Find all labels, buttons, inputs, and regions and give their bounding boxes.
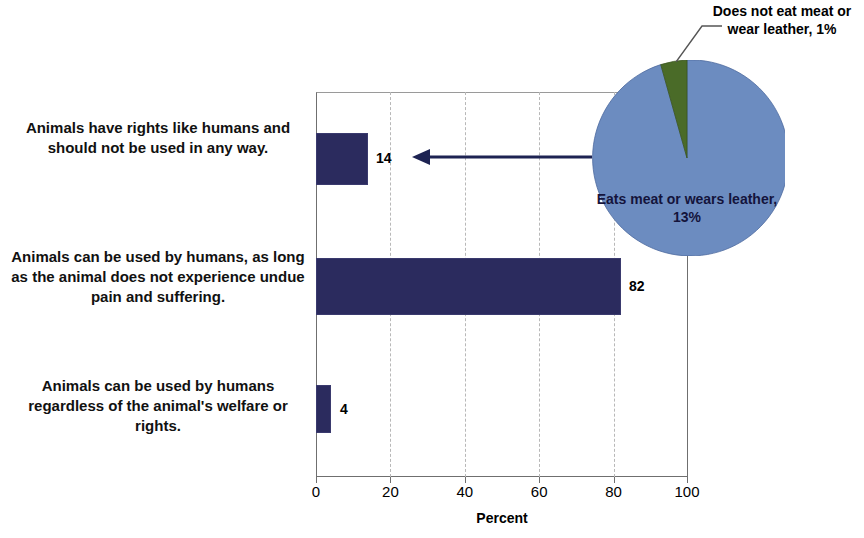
bar-value-3: 4 bbox=[340, 401, 348, 417]
bar-value-2: 82 bbox=[629, 278, 645, 294]
category-label-3: Animals can be used by humans regardless… bbox=[8, 376, 308, 435]
pie-chart bbox=[589, 60, 785, 256]
axis-tick-label-100: 100 bbox=[674, 483, 699, 500]
pie-to-bar-arrow-icon bbox=[410, 145, 592, 169]
pie-callout-label: Does not eat meat or wear leather, 1% bbox=[700, 2, 864, 38]
axis-tick-label-0: 0 bbox=[312, 483, 320, 500]
bar-3 bbox=[316, 385, 331, 433]
axis-tick-label-80: 80 bbox=[605, 483, 622, 500]
category-label-2: Animals can be used by humans, as long a… bbox=[8, 247, 308, 306]
bar-1 bbox=[316, 133, 368, 185]
bar-value-1: 14 bbox=[376, 150, 392, 166]
axis-tick-label-20: 20 bbox=[382, 483, 399, 500]
pie-slice-eats-meat bbox=[593, 60, 785, 256]
category-label-1: Animals have rights like humans and shou… bbox=[8, 118, 308, 158]
pie-inner-label: Eats meat or wears leather, 13% bbox=[586, 190, 788, 226]
x-axis-title: Percent bbox=[316, 510, 688, 526]
axis-tick-label-40: 40 bbox=[456, 483, 473, 500]
bar-2 bbox=[316, 258, 621, 315]
axis-tick-label-60: 60 bbox=[531, 483, 548, 500]
